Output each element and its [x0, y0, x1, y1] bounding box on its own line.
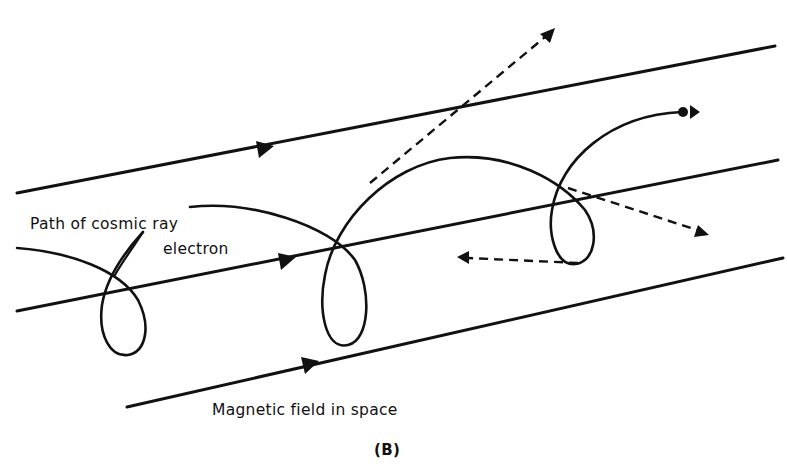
electron-dot-icon: [678, 107, 688, 117]
electron-path-label: Path of cosmic ray: [30, 215, 178, 233]
figure-caption: (B): [374, 441, 400, 459]
label-leader-line: [115, 232, 143, 275]
photon-arrow-right-icon: [694, 225, 709, 237]
photon-ray-up: [370, 37, 545, 183]
field-line-middle: [17, 160, 778, 311]
photon-arrow-up-icon: [540, 28, 555, 43]
field-line-bottom: [127, 258, 783, 407]
field-line-top: [17, 46, 775, 193]
field-label: Magnetic field in space: [212, 401, 398, 419]
electron-path-label-line2: electron: [163, 240, 229, 258]
photon-arrow-left-icon: [457, 251, 469, 264]
electron-path-segment-1: [17, 232, 145, 355]
photon-ray-right: [568, 188, 697, 230]
electron-exit-arrow-icon: [690, 105, 700, 119]
